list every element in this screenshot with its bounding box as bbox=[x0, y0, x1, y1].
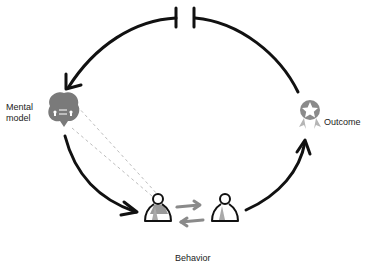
exchange-arrows-icon bbox=[177, 201, 203, 226]
feedback-loop-diagram bbox=[0, 0, 372, 280]
person-left-icon bbox=[145, 194, 171, 221]
mental-model-label-line2: model bbox=[6, 113, 31, 123]
person-right-icon bbox=[212, 194, 238, 221]
mental-model-label-line1: Mental bbox=[6, 102, 33, 112]
arc-break-to-mental-model bbox=[68, 18, 176, 88]
behavior-label: Behavior bbox=[175, 253, 211, 264]
award-ribbon-icon bbox=[299, 100, 321, 129]
dashed-line-lower bbox=[72, 128, 152, 196]
mental-model-label: Mental model bbox=[6, 102, 42, 124]
arc-outcome-to-break bbox=[195, 18, 298, 92]
brain-icon bbox=[48, 92, 79, 127]
outcome-label: Outcome bbox=[324, 117, 361, 128]
arc-mental-model-to-behavior bbox=[65, 136, 136, 212]
